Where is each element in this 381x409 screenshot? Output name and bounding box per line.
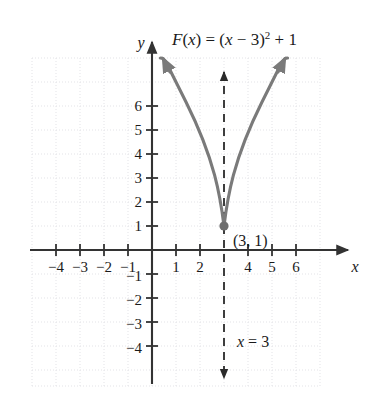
- x-tick-label: 2: [196, 259, 204, 275]
- equation-constant: + 1: [270, 30, 297, 49]
- figure-background: [0, 0, 381, 409]
- equation-shift: − 3): [233, 30, 265, 49]
- y-tick-label: 6: [135, 98, 143, 114]
- y-tick-label: −2: [126, 292, 142, 308]
- y-tick-label: 4: [135, 146, 143, 162]
- y-tick-label: 3: [135, 170, 143, 186]
- y-tick-label: 5: [135, 122, 143, 138]
- equation-title: F(x) = (x − 3)2 + 1: [171, 29, 297, 49]
- equation-function-name: F: [171, 30, 183, 49]
- vertex-point-label: (3, 1): [233, 232, 268, 250]
- x-tick-label: 6: [292, 259, 300, 275]
- y-tick-label: −3: [126, 316, 142, 332]
- y-tick-label: 1: [135, 218, 143, 234]
- x-tick-label: −4: [48, 259, 64, 275]
- y-tick-label: 2: [135, 194, 143, 210]
- y-tick-label: −1: [126, 268, 142, 284]
- y-tick-label: −4: [126, 340, 142, 356]
- x-axis-label: x: [350, 258, 358, 275]
- parabola-figure: −4 −3 −2 −1 1 2 4 5 6 1 2 3 4 5 6 −1 −2 …: [0, 0, 381, 409]
- x-tick-label: −2: [96, 259, 112, 275]
- vertex-point-marker: [219, 221, 228, 230]
- axis-of-symmetry-label: x = 3: [236, 333, 269, 350]
- equation-equals: ) = (: [196, 30, 226, 49]
- x-tick-label: −3: [72, 259, 88, 275]
- graph-canvas: −4 −3 −2 −1 1 2 4 5 6 1 2 3 4 5 6 −1 −2 …: [0, 0, 381, 409]
- x-tick-label: 5: [268, 259, 276, 275]
- axis-of-symmetry-label-rest: = 3: [244, 333, 269, 350]
- axis-of-symmetry-label-var: x: [236, 333, 244, 350]
- x-tick-label: 4: [244, 259, 252, 275]
- x-tick-label: 1: [172, 259, 180, 275]
- y-axis-label: y: [135, 34, 145, 52]
